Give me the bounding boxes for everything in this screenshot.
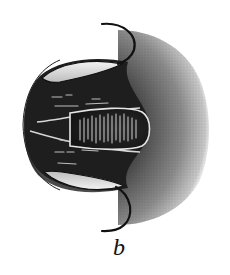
- panel-label: b: [107, 233, 131, 261]
- striated-oval: [70, 108, 150, 149]
